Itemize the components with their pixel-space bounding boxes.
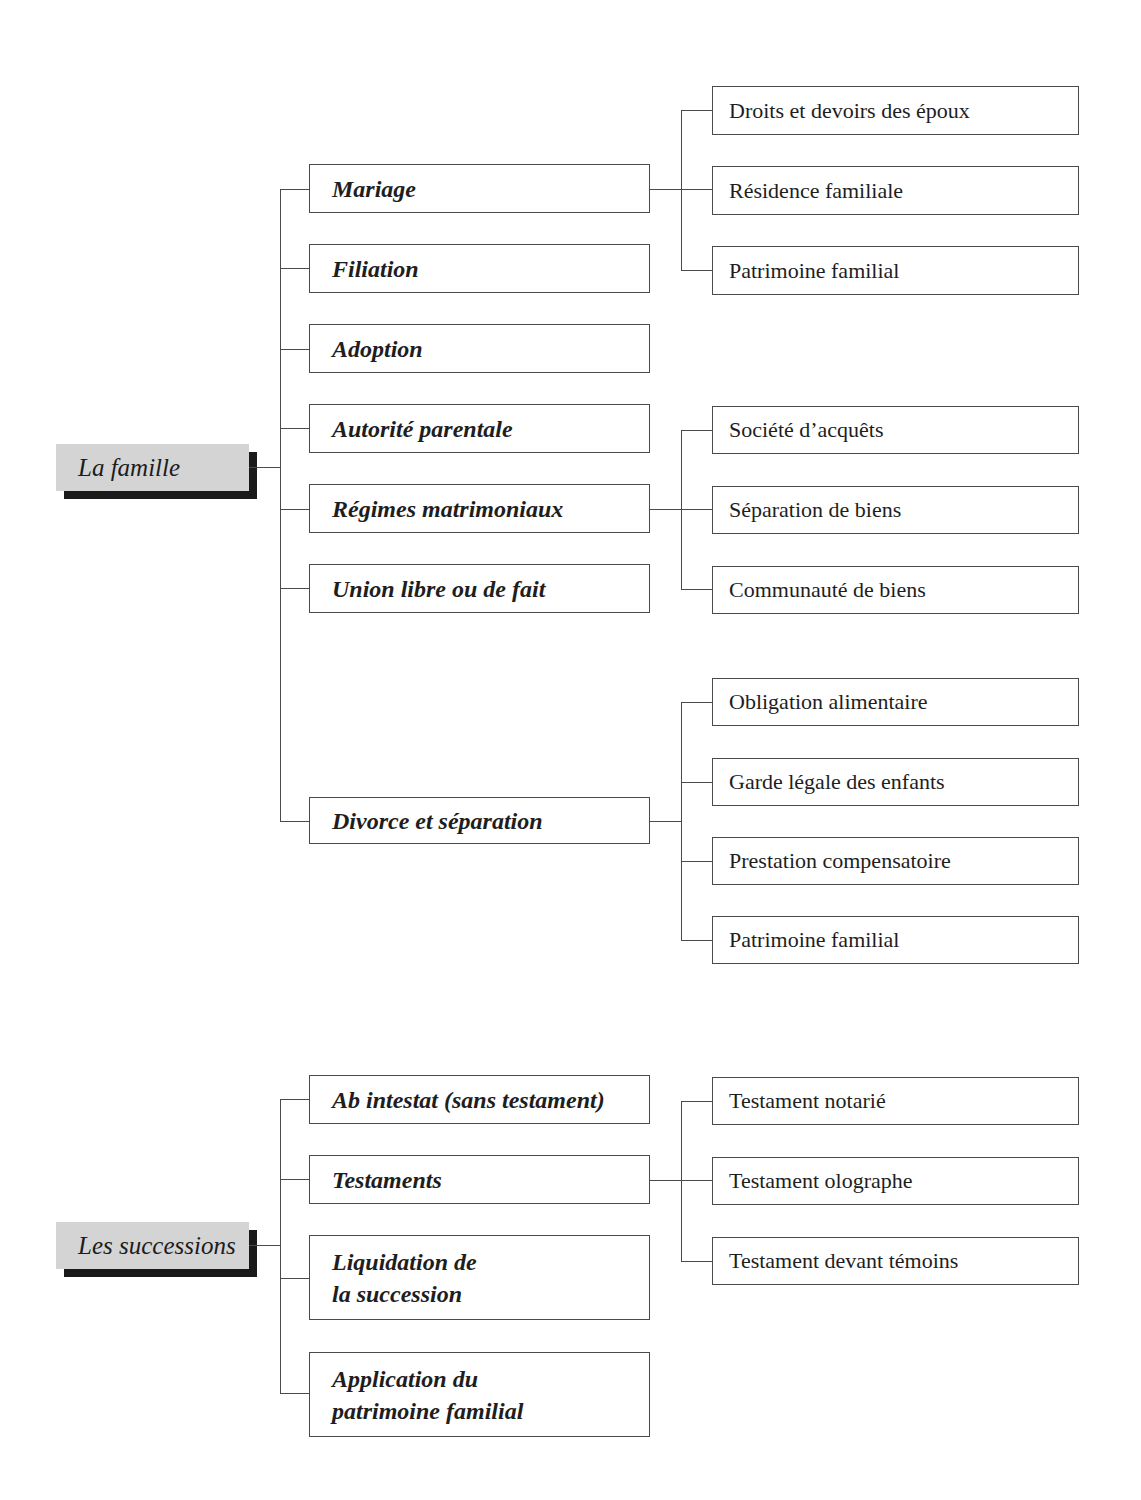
connector <box>280 349 309 350</box>
leaf-label: Patrimoine familial <box>729 258 899 284</box>
leaf-label: Résidence familiale <box>729 178 903 204</box>
node-label: Ab intestat (sans testament) <box>332 1084 605 1116</box>
node-label: Adoption <box>332 333 423 365</box>
leaf-separation-biens: Séparation de biens <box>712 486 1079 534</box>
connector <box>280 268 309 269</box>
leaf-label: Garde légale des enfants <box>729 769 945 795</box>
leaf-communaute-biens: Communauté de biens <box>712 566 1079 614</box>
connector <box>681 782 712 783</box>
node-divorce-separation: Divorce et séparation <box>309 797 650 844</box>
connector <box>681 1180 712 1181</box>
leaf-obligation-alimentaire: Obligation alimentaire <box>712 678 1079 726</box>
node-mariage: Mariage <box>309 164 650 213</box>
leaf-droits-devoirs: Droits et devoirs des époux <box>712 86 1079 135</box>
connector <box>280 1278 309 1279</box>
connector <box>681 430 712 431</box>
node-testaments: Testaments <box>309 1155 650 1204</box>
node-label: Régimes matrimoniaux <box>332 493 563 525</box>
connector <box>650 821 681 822</box>
leaf-label: Séparation de biens <box>729 497 901 523</box>
leaf-residence-familiale: Résidence familiale <box>712 166 1079 215</box>
connector <box>681 702 712 703</box>
connector <box>650 509 681 510</box>
leaf-label: Obligation alimentaire <box>729 689 928 715</box>
leaf-label: Testament olographe <box>729 1168 913 1194</box>
connector <box>249 467 280 468</box>
root-node-label: La famille <box>78 454 180 482</box>
connector <box>280 509 309 510</box>
node-regimes-matrimoniaux: Régimes matrimoniaux <box>309 484 650 533</box>
node-adoption: Adoption <box>309 324 650 373</box>
connector <box>280 821 309 822</box>
connector <box>280 1179 309 1180</box>
node-application-patrimoine: Application du patrimoine familial <box>309 1352 650 1437</box>
node-label: Mariage <box>332 173 416 205</box>
node-union-libre: Union libre ou de fait <box>309 564 650 613</box>
node-label: Divorce et séparation <box>332 805 543 837</box>
leaf-patrimoine-familial-divorce: Patrimoine familial <box>712 916 1079 964</box>
node-autorite-parentale: Autorité parentale <box>309 404 650 453</box>
leaf-label: Prestation compensatoire <box>729 848 951 874</box>
leaf-label: Communauté de biens <box>729 577 926 603</box>
leaf-prestation-compensatoire: Prestation compensatoire <box>712 837 1079 885</box>
leaf-patrimoine-familial: Patrimoine familial <box>712 246 1079 295</box>
leaf-label: Testament notarié <box>729 1088 886 1114</box>
connector <box>681 1101 712 1102</box>
leaf-testament-temoins: Testament devant témoins <box>712 1237 1079 1285</box>
connector <box>280 1099 309 1100</box>
node-label: Testaments <box>332 1164 442 1196</box>
leaf-label: Droits et devoirs des époux <box>729 98 970 124</box>
root-node-les-successions: Les successions <box>56 1222 249 1269</box>
leaf-label: Patrimoine familial <box>729 927 899 953</box>
node-label-line-1: Application du <box>332 1363 478 1395</box>
node-label-line-2: patrimoine familial <box>332 1395 523 1427</box>
connector <box>681 861 712 862</box>
leaf-testament-notarie: Testament notarié <box>712 1077 1079 1125</box>
connector-trunk <box>280 189 281 822</box>
connector <box>681 940 712 941</box>
connector <box>650 1180 681 1181</box>
node-liquidation-succession: Liquidation de la succession <box>309 1235 650 1320</box>
node-label: Union libre ou de fait <box>332 573 545 605</box>
leaf-label: Société d’acquêts <box>729 417 884 443</box>
node-label-line-2: la succession <box>332 1278 462 1310</box>
connector <box>280 588 309 589</box>
root-node-la-famille: La famille <box>56 444 249 491</box>
node-label: Filiation <box>332 253 419 285</box>
node-filiation: Filiation <box>309 244 650 293</box>
connector <box>681 509 712 510</box>
node-label: Autorité parentale <box>332 413 513 445</box>
connector <box>681 1261 712 1262</box>
leaf-garde-legale: Garde légale des enfants <box>712 758 1079 806</box>
connector-bracket <box>681 702 682 941</box>
node-label-line-1: Liquidation de <box>332 1246 477 1278</box>
connector <box>249 1245 280 1246</box>
connector <box>650 189 681 190</box>
connector <box>280 428 309 429</box>
connector <box>280 189 309 190</box>
node-ab-intestat: Ab intestat (sans testament) <box>309 1075 650 1124</box>
leaf-societe-acquets: Société d’acquêts <box>712 406 1079 454</box>
connector <box>280 1393 309 1394</box>
root-node-label: Les successions <box>78 1232 236 1260</box>
leaf-testament-olographe: Testament olographe <box>712 1157 1079 1205</box>
leaf-label: Testament devant témoins <box>729 1248 958 1274</box>
connector-trunk <box>280 1099 281 1394</box>
connector <box>681 589 712 590</box>
connector <box>681 110 712 111</box>
connector <box>681 270 712 271</box>
connector <box>681 189 712 190</box>
